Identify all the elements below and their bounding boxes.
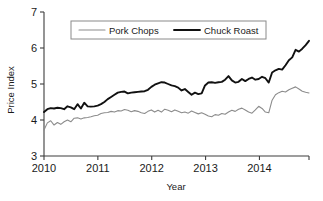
series-line-chuck-roast [44,41,309,112]
x-tick-label: 2012 [139,162,163,174]
chart-canvas: 34567 20102011201220132014 Pork ChopsChu… [0,0,323,201]
legend-label-pork-chops: Pork Chops [109,25,159,36]
x-tick-label: 2010 [32,162,56,174]
x-axis-title: Year [166,181,185,192]
x-axis: 20102011201220132014 [32,156,309,174]
y-tick-label: 7 [31,6,37,18]
series-line-pork-chops [44,87,309,130]
price-index-line-chart: 34567 20102011201220132014 Pork ChopsChu… [0,0,323,201]
y-axis: 34567 [31,6,44,162]
y-tick-label: 3 [31,150,37,162]
series-container [44,41,309,130]
y-axis-title: Price Index [5,66,16,114]
x-tick-label: 2013 [193,162,217,174]
chart-legend: Pork ChopsChuck Roast [71,21,266,39]
y-tick-label: 6 [31,42,37,54]
y-tick-label: 4 [31,114,37,126]
x-tick-label: 2011 [86,162,110,174]
legend-label-chuck-roast: Chuck Roast [204,25,259,36]
x-tick-label: 2014 [247,162,271,174]
y-tick-label: 5 [31,78,37,90]
